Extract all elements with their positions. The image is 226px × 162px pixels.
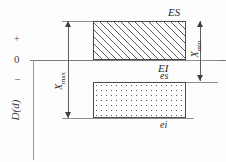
ordinate-axis	[33, 60, 34, 160]
dimension-label-xmax-subscript: max	[59, 72, 67, 84]
shaft-tolerance-zone	[93, 82, 186, 118]
deviation-label-ei: ei	[160, 119, 167, 130]
arrowhead-up-icon	[197, 21, 203, 27]
dimension-label-xmin-subscript: min	[195, 41, 203, 52]
ordinate-caption-label: D(d)	[9, 89, 21, 131]
deviation-label-es: es	[160, 70, 168, 81]
dimension-label-xmax-symbol: X	[53, 84, 64, 90]
axis-label-plus: +	[14, 34, 20, 44]
arrowhead-down-icon	[197, 75, 203, 81]
dimension-label-xmax: Xmax	[53, 61, 67, 101]
axis-label-zero: 0	[14, 54, 20, 65]
dimension-line-xmax	[68, 21, 69, 118]
arrowhead-up-icon	[65, 21, 71, 27]
tolerance-zone-diagram: + 0 – D(d) Xmax Xmin ES EI es ei	[0, 0, 226, 162]
dimension-label-xmin: Xmin	[189, 29, 203, 69]
dimension-label-xmin-symbol: X	[189, 51, 200, 57]
axis-label-minus: –	[15, 74, 20, 84]
deviation-label-ES: ES	[168, 6, 180, 18]
hole-tolerance-zone	[93, 21, 186, 60]
extension-line-ei-shaft	[62, 118, 194, 119]
arrowhead-down-icon	[65, 112, 71, 118]
